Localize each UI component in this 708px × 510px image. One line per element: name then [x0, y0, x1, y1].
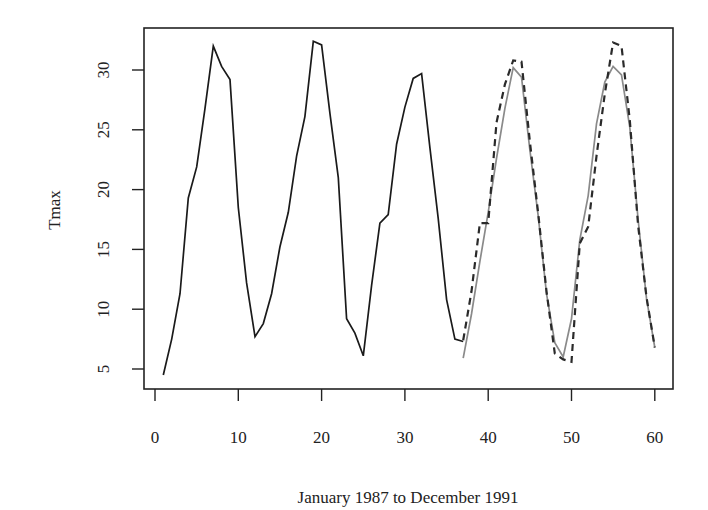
x-tick-label: 20	[313, 428, 330, 447]
x-tick-label: 0	[151, 428, 160, 447]
y-tick-label: 15	[94, 241, 113, 258]
y-tick-label: 5	[94, 365, 113, 374]
y-tick-label: 30	[94, 62, 113, 79]
plot-frame	[144, 28, 673, 389]
series-layer	[163, 41, 655, 375]
x-tick-label: 40	[480, 428, 497, 447]
series-fitted-line	[463, 66, 655, 358]
y-tick-label: 25	[94, 121, 113, 138]
y-axis-title: Tmax	[45, 190, 64, 230]
y-tick-label: 10	[94, 301, 113, 318]
series-observed-line	[163, 41, 463, 375]
series-forecast-line	[463, 43, 655, 362]
x-tick-label: 10	[230, 428, 247, 447]
x-tick-label: 30	[396, 428, 413, 447]
y-axis: 51015202530	[94, 62, 144, 374]
line-chart: 0102030405060 51015202530 January 1987 t…	[0, 0, 708, 510]
x-axis-title: January 1987 to December 1991	[298, 488, 519, 507]
x-axis: 0102030405060	[151, 389, 664, 447]
x-tick-label: 60	[646, 428, 663, 447]
x-tick-label: 50	[563, 428, 580, 447]
y-tick-label: 20	[94, 181, 113, 198]
